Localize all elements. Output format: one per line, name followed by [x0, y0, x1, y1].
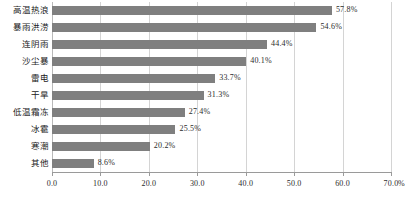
x-tick-label: 50.0	[274, 178, 314, 190]
bar	[52, 108, 185, 117]
category-axis: 高温热浪暴雨洪涝连阴雨沙尘暴雷电干旱低温霜冻冰雹寒潮其他	[0, 2, 49, 172]
bar	[52, 74, 215, 83]
x-tick-label: 70.0	[371, 178, 411, 190]
bar-value-label: 54.6%	[320, 20, 342, 33]
x-tick-label: 30.0	[177, 178, 217, 190]
x-tick	[149, 172, 150, 176]
bar-value-label: 33.7%	[219, 71, 241, 84]
bar-value-label: 8.6%	[98, 156, 115, 169]
x-tick-label: 10.0	[80, 178, 120, 190]
category-label: 沙尘暴	[1, 53, 49, 70]
category-label: 低温霜冻	[1, 104, 49, 121]
category-label: 高温热浪	[1, 2, 49, 19]
x-tick	[52, 172, 53, 176]
bar-value-label: 57.8%	[336, 3, 358, 16]
x-tick	[343, 172, 344, 176]
bar-value-label: 40.1%	[250, 54, 272, 67]
x-tick	[246, 172, 247, 176]
category-label: 雷电	[1, 70, 49, 87]
horizontal-bar-chart: 高温热浪暴雨洪涝连阴雨沙尘暴雷电干旱低温霜冻冰雹寒潮其他 57.8%54.6%4…	[0, 0, 412, 207]
bar-row: 8.6%	[52, 155, 391, 172]
bar	[52, 142, 150, 151]
bar-value-label: 44.4%	[271, 37, 293, 50]
bar	[52, 40, 267, 49]
bar-row: 25.5%	[52, 121, 391, 138]
bar-row: 40.1%	[52, 53, 391, 70]
x-axis-unit-label: %	[398, 178, 405, 190]
x-tick	[197, 172, 198, 176]
category-label: 干旱	[1, 87, 49, 104]
bar	[52, 91, 204, 100]
bar-row: 33.7%	[52, 70, 391, 87]
bar	[52, 57, 246, 66]
x-tick-label: 20.0	[129, 178, 169, 190]
x-tick-label: 0.0	[32, 178, 72, 190]
bar	[52, 23, 316, 32]
gridline-70.0	[391, 2, 392, 172]
x-tick	[391, 172, 392, 176]
category-label: 冰雹	[1, 121, 49, 138]
category-label: 其他	[1, 155, 49, 172]
bar	[52, 159, 94, 168]
plot-area: 57.8%54.6%44.4%40.1%33.7%31.3%27.4%25.5%…	[52, 2, 391, 172]
bar-row: 31.3%	[52, 87, 391, 104]
bar-value-label: 20.2%	[154, 139, 176, 152]
bar-row: 57.8%	[52, 2, 391, 19]
bar-value-label: 31.3%	[208, 88, 230, 101]
x-tick-label: 40.0	[226, 178, 266, 190]
x-tick	[100, 172, 101, 176]
bar	[52, 6, 332, 15]
bar-row: 44.4%	[52, 36, 391, 53]
bar-value-label: 27.4%	[189, 105, 211, 118]
x-tick	[294, 172, 295, 176]
bar-row: 20.2%	[52, 138, 391, 155]
bar	[52, 125, 175, 134]
x-axis-line	[52, 172, 392, 173]
bar-row: 27.4%	[52, 104, 391, 121]
category-label: 连阴雨	[1, 36, 49, 53]
bar-row: 54.6%	[52, 19, 391, 36]
x-tick-label: 60.0	[323, 178, 363, 190]
category-label: 寒潮	[1, 138, 49, 155]
category-label: 暴雨洪涝	[1, 19, 49, 36]
bar-value-label: 25.5%	[179, 122, 201, 135]
